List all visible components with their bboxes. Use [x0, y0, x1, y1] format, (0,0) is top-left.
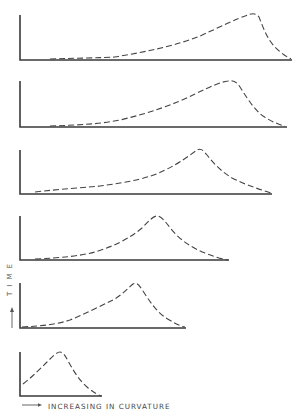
panel-4-axes [20, 216, 229, 260]
time-arrow [10, 307, 14, 328]
panel-6 [20, 352, 102, 396]
panel-2 [20, 81, 287, 127]
panel-6-axes [20, 352, 102, 396]
panel-2-axes [20, 81, 287, 127]
curvature-arrow [22, 403, 42, 407]
panel-6-curve [23, 352, 101, 396]
panel-3 [20, 149, 272, 194]
panel-2-curve [50, 81, 285, 126]
panel-1-curve [50, 14, 291, 59]
panel-4-curve [35, 216, 228, 260]
y-axis-label-text: TIME [4, 248, 17, 308]
panel-4 [20, 216, 229, 260]
panel-1-axes [20, 15, 292, 60]
panel-5-curve [22, 283, 185, 327]
panel-5-axes [20, 283, 186, 328]
y-axis-label: TIME [5, 246, 15, 284]
panel-3-curve [35, 149, 271, 193]
x-axis-label: INCREASING IN CURVATURE [48, 402, 171, 411]
panel-3-axes [20, 150, 272, 194]
panel-1 [20, 14, 292, 60]
panel-5 [20, 283, 186, 328]
figure-canvas [0, 0, 299, 420]
